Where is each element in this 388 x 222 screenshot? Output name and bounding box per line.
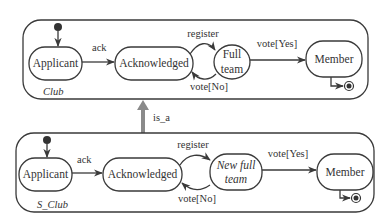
transition-ack-label: ack	[77, 154, 92, 165]
state-full-team-label-line2: team	[221, 63, 243, 75]
is-a-label: is_a	[153, 112, 170, 123]
s-club-name-label: S_Club	[37, 199, 68, 210]
transition-register-label: register	[187, 28, 219, 39]
state-applicant-label: Applicant	[23, 168, 69, 181]
club-name-label: Club	[43, 86, 63, 97]
state-member-label: Member	[315, 53, 354, 65]
state-full-team-label-line1: Full	[223, 48, 242, 60]
state-acknowledged-label: Acknowledged	[108, 168, 178, 181]
state-new-full-team-label-line2: team	[225, 173, 247, 185]
transition-vote-no-label: vote[No]	[190, 81, 228, 92]
transition-vote-no-label: vote[No]	[178, 193, 216, 204]
is-a-arrowhead-icon	[137, 100, 149, 110]
transition-vote-yes-label: vote[Yes]	[268, 148, 308, 159]
transition-ack-label: ack	[92, 42, 107, 53]
initial-state-icon	[54, 23, 62, 31]
is-a-relation: is_a	[137, 100, 170, 133]
state-new-full-team-label-line1: New full	[216, 159, 256, 172]
state-member-label: Member	[326, 166, 365, 178]
state-acknowledged-label: Acknowledged	[119, 57, 189, 70]
statechart-diagram: Applicant ack Acknowledged register vote…	[0, 0, 388, 222]
transition-register-label: register	[177, 139, 209, 150]
club-statechart: Applicant ack Acknowledged register vote…	[23, 20, 368, 99]
state-applicant-label: Applicant	[33, 57, 79, 70]
s-club-statechart: Applicant ack Acknowledged register vote…	[16, 133, 374, 212]
transition-vote-yes-label: vote[Yes]	[257, 38, 297, 49]
initial-state-icon	[43, 136, 51, 144]
